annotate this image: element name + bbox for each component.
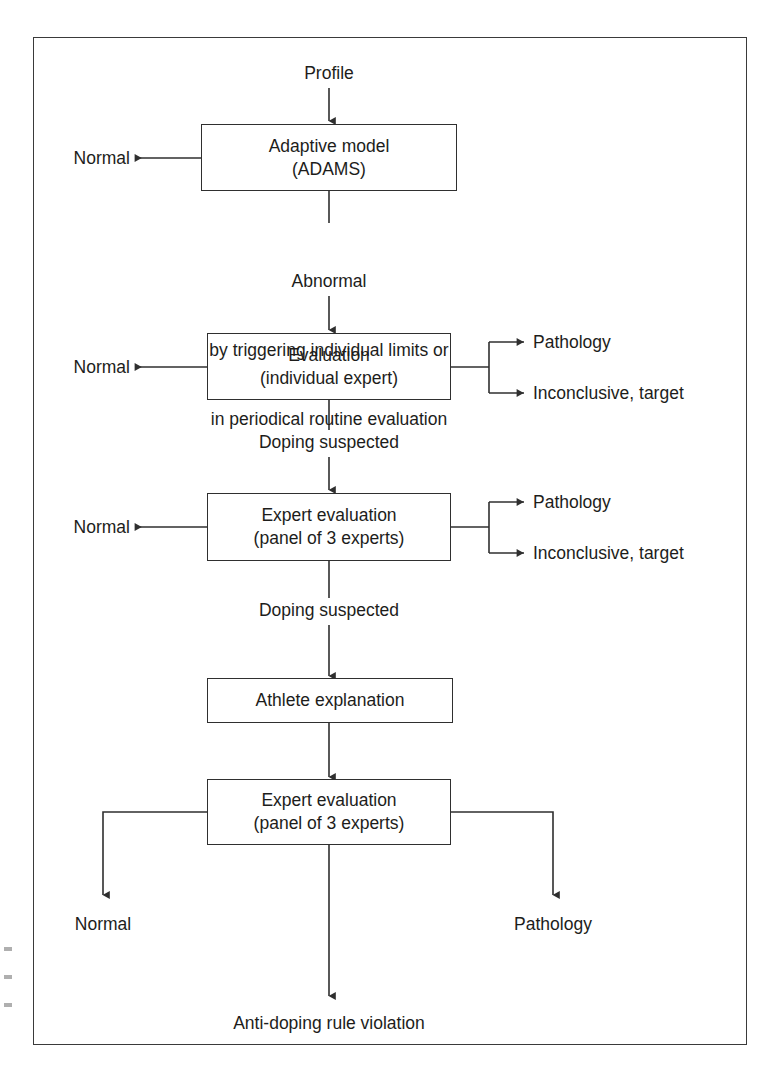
edge-label-abnormal-line2: by triggering individual limits or [209,339,448,362]
node-expert-evaluation-panel-1-label: Expert evaluation (panel of 3 experts) [207,493,451,561]
node-adaptive-model-label: Adaptive model (ADAMS) [201,124,457,191]
figure-page: Adaptive model (ADAMS) Evaluation (indiv… [0,0,775,1077]
node-profile-label: Profile [304,62,354,85]
node-expert-panel-1-line1: Expert evaluation [261,504,396,527]
node-expert-evaluation-panel-2-label: Expert evaluation (panel of 3 experts) [207,779,451,845]
outcome-pathology-final: Pathology [514,913,592,936]
node-athlete-explanation-label: Athlete explanation [207,678,453,723]
edge-label-doping-suspected-2: Doping suspected [259,599,399,622]
outcome-normal-final: Normal [75,913,131,936]
node-adaptive-model-line2: (ADAMS) [292,158,366,181]
outcome-inconclusive-from-evaluation: Inconclusive, target [533,382,684,405]
outcome-pathology-from-evaluation: Pathology [533,331,611,354]
node-adaptive-model-line1: Adaptive model [269,135,390,158]
outcome-pathology-from-expert-panel-1: Pathology [533,491,611,514]
node-expert-panel-1-line2: (panel of 3 experts) [254,527,405,550]
edge-label-abnormal-line3: in periodical routine evaluation [209,408,448,431]
edge-label-abnormal-line1: Abnormal [209,270,448,293]
outcome-normal-from-adaptive-model: Normal [74,147,130,170]
node-athlete-explanation-line1: Athlete explanation [256,689,405,712]
page-edge-crop-marks [4,947,18,1013]
outcome-inconclusive-from-expert-panel-1: Inconclusive, target [533,542,684,565]
outcome-anti-doping-rule-violation: Anti-doping rule violation [233,1012,425,1035]
node-expert-panel-2-line2: (panel of 3 experts) [254,812,405,835]
outcome-normal-from-evaluation: Normal [74,356,130,379]
outcome-normal-from-expert-panel-1: Normal [74,516,130,539]
node-expert-panel-2-line1: Expert evaluation [261,789,396,812]
edge-label-doping-suspected-1: Doping suspected [259,431,399,454]
